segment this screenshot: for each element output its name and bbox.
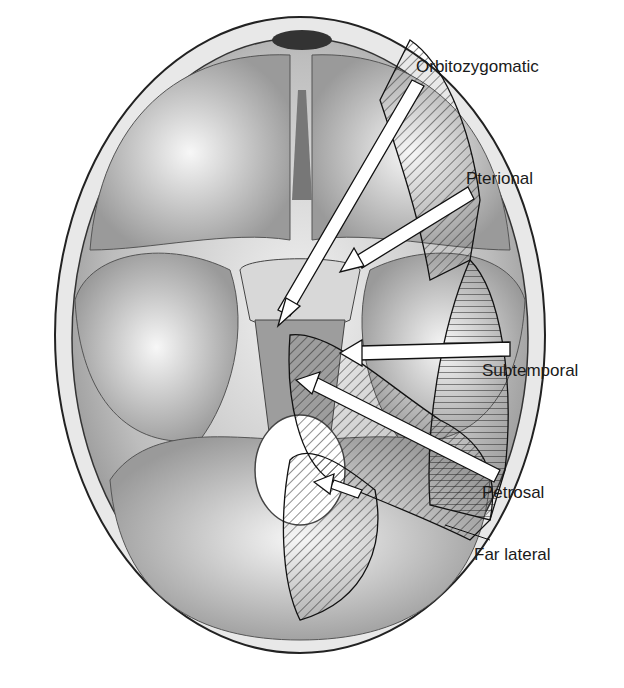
anterior-fossa-left: [90, 55, 290, 250]
label-petrosal: Petrosal: [482, 483, 544, 502]
frontal-sinus: [272, 30, 332, 50]
label-orbitozygomatic: Orbitozygomatic: [416, 57, 539, 76]
label-pterional: Pterional: [466, 169, 533, 188]
label-subtemporal: Subtemporal: [482, 361, 578, 380]
label-far-lateral: Far lateral: [474, 545, 551, 564]
skull-base-diagram: Orbitozygomatic Pterional Subtemporal Pe…: [0, 0, 624, 688]
